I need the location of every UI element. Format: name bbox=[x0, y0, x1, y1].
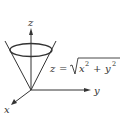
equation-plus: + bbox=[93, 63, 101, 74]
z-axis-arrow-icon bbox=[29, 28, 33, 35]
cone-diagram: z y x z = x 2 + y 2 bbox=[0, 0, 129, 121]
cone-equation: z = x 2 + y 2 bbox=[49, 58, 120, 74]
x-axis-label: x bbox=[4, 104, 10, 115]
equation-lhs: z bbox=[49, 63, 56, 74]
equation-x-exponent: 2 bbox=[85, 60, 89, 68]
cone-left-edge bbox=[5, 41, 31, 90]
equation-y-exponent: 2 bbox=[112, 60, 116, 68]
x-axis-arrow-icon bbox=[11, 99, 17, 105]
equation-y: y bbox=[104, 63, 111, 74]
y-axis-arrow-icon bbox=[84, 88, 91, 92]
z-axis-label: z bbox=[27, 17, 34, 28]
equation-equals: = bbox=[59, 63, 67, 74]
x-axis bbox=[15, 90, 31, 102]
y-axis-label: y bbox=[93, 85, 100, 96]
